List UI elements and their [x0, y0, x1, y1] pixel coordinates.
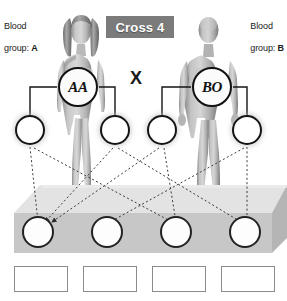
answer-box-1[interactable]	[14, 266, 68, 292]
mother-genotype-label: AA	[68, 79, 87, 96]
father-genotype-circle: BO	[192, 67, 232, 107]
answer-box-4[interactable]	[221, 266, 275, 292]
offspring-circle-4[interactable]	[229, 216, 261, 248]
mother-blood-label-line2: group: A	[4, 43, 38, 54]
platform-top-surface	[14, 185, 287, 213]
father-genotype-label: BO	[202, 79, 222, 96]
offspring-circle-3[interactable]	[160, 216, 192, 248]
gamete-circle-1[interactable]	[15, 115, 45, 145]
offspring-circle-1[interactable]	[22, 216, 54, 248]
mother-blood-label-line1: Blood	[4, 21, 38, 32]
connector-lines-layer	[0, 0, 287, 301]
gamete-circle-3[interactable]	[147, 115, 177, 145]
answer-box-2[interactable]	[83, 266, 137, 292]
gamete-circle-2[interactable]	[100, 115, 130, 145]
cross-multiply-symbol: X	[130, 68, 142, 89]
father-blood-label-line2: group: B	[250, 43, 284, 54]
gamete-circle-4[interactable]	[232, 115, 262, 145]
cross-title-label: Cross 4	[115, 20, 164, 35]
father-blood-group-value: B	[278, 43, 284, 53]
male-parent-figure	[178, 17, 239, 197]
mother-genotype-circle: AA	[58, 67, 98, 107]
gamete-to-offspring-lines	[30, 147, 247, 222]
mother-blood-group-value: A	[31, 43, 37, 53]
mother-blood-group-label: Blood group: A	[4, 10, 38, 65]
genetics-cross-diagram: Blood group: A Blood group: B Cross 4 X …	[0, 0, 287, 301]
offspring-circle-2[interactable]	[91, 216, 123, 248]
father-blood-group-label: Blood group: B	[250, 10, 284, 65]
offspring-platform	[0, 0, 287, 301]
parent-figures-layer	[0, 0, 287, 301]
father-blood-label-line1: Blood	[250, 21, 284, 32]
cross-title-banner: Cross 4	[106, 16, 174, 38]
answer-box-3[interactable]	[152, 266, 206, 292]
platform-right-bevel	[272, 185, 287, 253]
